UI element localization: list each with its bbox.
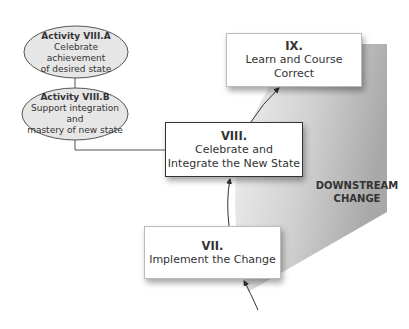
stage-title: Learn and Course [227,53,361,67]
connector-activity-b-stage-viii [75,140,165,150]
activity-text: Celebrate achievement [24,42,128,64]
region-label-line: DOWNSTREAM [312,179,402,192]
stage-number: VII. [145,239,280,253]
activity-text: Support integration and [22,103,128,125]
stage-title: Celebrate and [166,143,302,157]
activity-label: Activity VIII.B [22,92,128,103]
activity-text: of desired state [24,64,128,75]
activity-viii-a: Activity VIII.A Celebrate achievement of… [24,27,128,78]
stage-number: VIII. [166,129,302,143]
stage-title: Implement the Change [145,253,280,267]
downstream-change-label: DOWNSTREAM CHANGE [312,179,402,205]
stage-vii-box: VII. Implement the Change [144,226,281,279]
activity-text: mastery of new state [22,125,128,136]
stage-title: Integrate the New State [166,157,302,171]
stage-viii-box: VIII. Celebrate and Integrate the New St… [165,122,303,177]
activity-label: Activity VIII.A [24,31,128,42]
activity-viii-b: Activity VIII.B Support integration and … [22,88,128,140]
stage-title: Correct [227,67,361,81]
stage-number: IX. [227,39,361,53]
region-label-line: CHANGE [312,192,402,205]
arrow-vii-to-viii [228,179,230,226]
stage-ix-box: IX. Learn and Course Correct [226,33,362,87]
